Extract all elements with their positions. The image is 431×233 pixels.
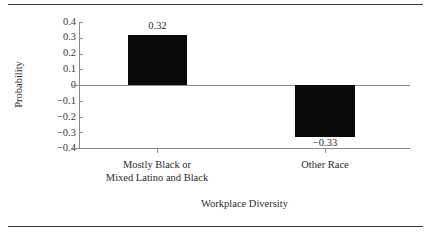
- x-category-label-1: Other Race: [265, 158, 385, 171]
- x-category-label-0: Mostly Black or Mixed Latino and Black: [87, 158, 227, 184]
- y-axis-title: Probability: [13, 45, 24, 125]
- y-tick-label: 0.2: [40, 48, 76, 58]
- bar-value-label: −0.33: [295, 137, 355, 148]
- figure-container: Probability 0.4 0.3 0.2 0.1 0 −0.1 −0.2 …: [0, 0, 431, 233]
- x-tick-mark: [325, 149, 326, 153]
- x-category-label-0-line-2: Mixed Latino and Black: [87, 171, 227, 184]
- y-tick-label: 0.3: [40, 32, 76, 42]
- y-tick-label: −0.3: [40, 128, 76, 138]
- bar-value-label: 0.32: [128, 20, 187, 31]
- x-tick-mark: [157, 149, 158, 153]
- y-tick-label: −0.1: [40, 96, 76, 106]
- x-axis-title: Workplace Diversity: [79, 198, 410, 209]
- x-category-label-1-line-1: Other Race: [265, 158, 385, 171]
- zero-baseline: [71, 85, 410, 86]
- x-axis-spine: [71, 148, 410, 149]
- y-axis-tick-labels: 0.4 0.3 0.2 0.1 0 −0.1 −0.2 −0.3 −0.4: [36, 0, 76, 233]
- y-tick-label: 0.4: [40, 17, 76, 27]
- y-tick-label: −0.2: [40, 112, 76, 122]
- y-tick-label: 0.1: [40, 64, 76, 74]
- x-category-label-0-line-1: Mostly Black or: [87, 158, 227, 171]
- bar-mostly-black-or-mixed-latino-and-black: [128, 35, 187, 85]
- bar-other-race: [295, 85, 355, 137]
